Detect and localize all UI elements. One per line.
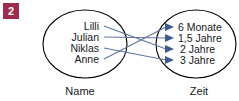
arrow-head-icon-6-monate bbox=[165, 23, 174, 31]
exercise-figure: 2 Lilli Julian Niklas Anne 6 Monate 1,5 … bbox=[0, 0, 239, 101]
arrow-head-icon-3-jahre bbox=[165, 56, 174, 64]
right-item-label-3: 3 Jahre bbox=[180, 54, 215, 66]
left-item-label-3: Anne bbox=[74, 53, 99, 65]
right-set-caption: Zeit bbox=[190, 85, 208, 97]
left-set-caption: Name bbox=[65, 85, 94, 97]
arrow-head-icon-1-5-jahre bbox=[165, 34, 174, 42]
mapping-diagram: Lilli Julian Niklas Anne 6 Monate 1,5 Ja… bbox=[0, 0, 239, 101]
arrow-head-icon-2-jahre bbox=[165, 45, 174, 53]
